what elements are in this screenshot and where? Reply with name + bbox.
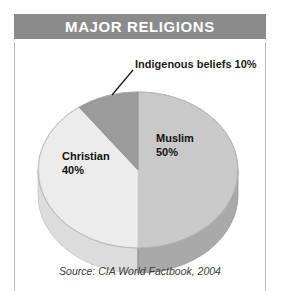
- callout-label-indigenous-beliefs: Indigenous beliefs 10%: [135, 58, 257, 70]
- source-note: Source: CIA World Factbook, 2004: [14, 265, 266, 277]
- slice-label-muslim: Muslim 50%: [156, 132, 194, 160]
- slice-label-christian: Christian 40%: [62, 150, 110, 178]
- page-title: MAJOR RELIGIONS: [65, 18, 215, 35]
- slice-label-christian-percent: 40%: [62, 164, 110, 178]
- major-religions-figure: MAJOR RELIGIONS Indigenous beliefs 10: [0, 0, 281, 291]
- slice-label-muslim-percent: 50%: [156, 146, 194, 160]
- chart-panel: [14, 42, 266, 291]
- slice-label-christian-name: Christian: [62, 150, 110, 162]
- chart-title-bar: MAJOR RELIGIONS: [14, 14, 266, 39]
- slice-label-muslim-name: Muslim: [156, 132, 194, 144]
